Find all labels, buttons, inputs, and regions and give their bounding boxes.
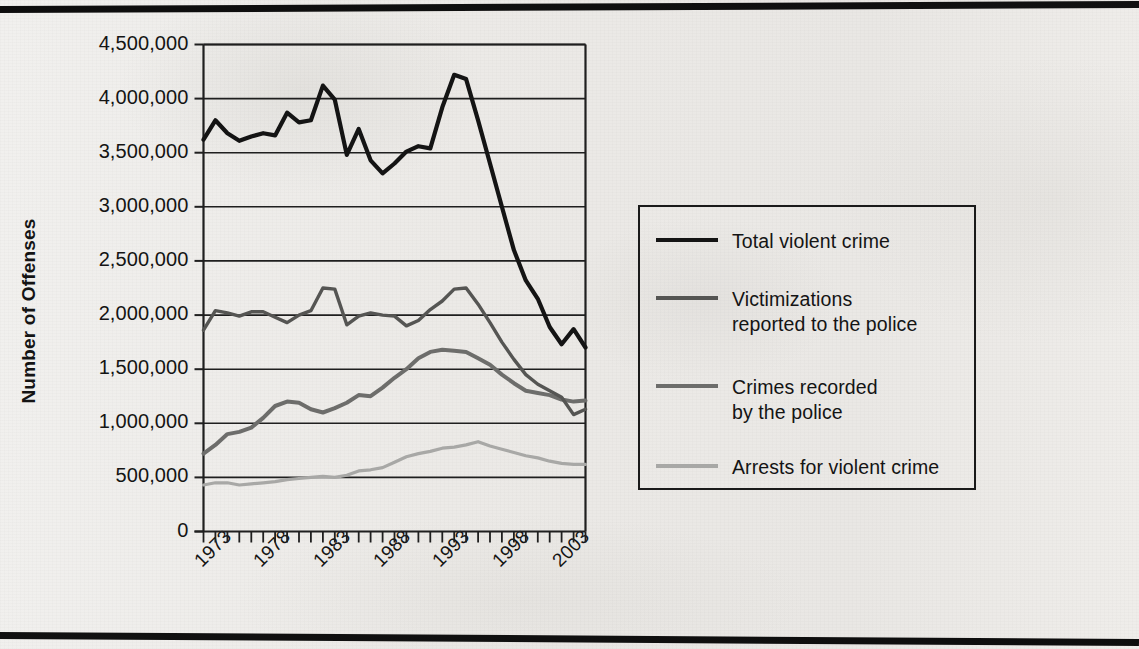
legend-label-line2: by the police xyxy=(732,400,878,425)
legend-item-label: Victimizationsreported to the police xyxy=(732,287,917,337)
series-line xyxy=(204,75,586,348)
legend-item-label: Crimes recordedby the police xyxy=(732,375,878,425)
legend-item[interactable]: Victimizationsreported to the police xyxy=(656,287,917,337)
legend-line-swatch xyxy=(656,455,718,477)
legend-item[interactable]: Crimes recordedby the police xyxy=(656,375,878,425)
legend-line-swatch xyxy=(656,287,718,309)
legend-item-label: Total violent crime xyxy=(732,229,890,254)
legend-item[interactable]: Total violent crime xyxy=(656,229,890,254)
series-line xyxy=(204,288,586,415)
legend-label-line1: Total violent crime xyxy=(732,229,890,254)
series-line xyxy=(204,350,586,454)
legend-line-swatch xyxy=(656,229,718,251)
legend-label-line2: reported to the police xyxy=(732,312,917,337)
legend-label-line1: Victimizations xyxy=(732,287,917,312)
series-line xyxy=(204,442,586,485)
legend-label-line1: Crimes recorded xyxy=(732,375,878,400)
legend-line-swatch xyxy=(656,375,718,397)
chart-legend: Total violent crimeVictimizationsreporte… xyxy=(638,205,976,490)
legend-item-label: Arrests for violent crime xyxy=(732,455,939,480)
figure-container: Number of Offenses 0500,0001,000,0001,50… xyxy=(0,0,1139,649)
legend-label-line1: Arrests for violent crime xyxy=(732,455,939,480)
legend-item[interactable]: Arrests for violent crime xyxy=(656,455,939,480)
